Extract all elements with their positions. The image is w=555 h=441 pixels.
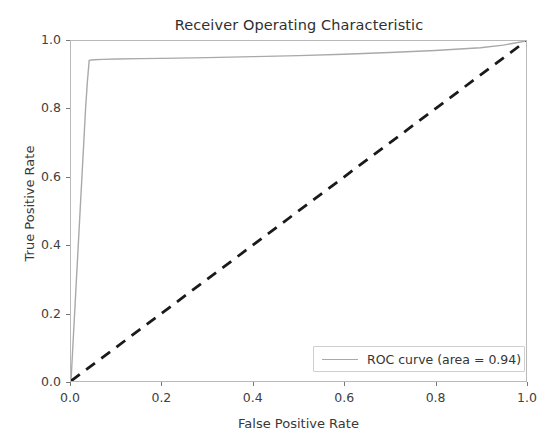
x-tick-mark (253, 382, 254, 386)
page-title: Receiver Operating Characteristic (70, 17, 528, 33)
plot-svg (71, 41, 526, 381)
legend-line-sample (322, 359, 358, 360)
y-tick-mark (66, 314, 70, 315)
x-axis-label: False Positive Rate (70, 416, 527, 431)
x-tick-label: 0.8 (416, 390, 456, 405)
y-tick-label: 1.0 (27, 32, 61, 47)
y-tick-label: 0.0 (27, 374, 61, 389)
y-tick-mark (66, 245, 70, 246)
y-tick-label: 0.2 (27, 306, 61, 321)
x-tick-label: 0.6 (324, 390, 364, 405)
y-tick-mark (66, 40, 70, 41)
chance-diagonal-line (71, 41, 526, 381)
y-tick-mark (66, 108, 70, 109)
x-tick-label: 0.4 (233, 390, 273, 405)
x-tick-mark (527, 382, 528, 386)
x-tick-mark (70, 382, 71, 386)
y-axis-label: True Positive Rate (22, 124, 37, 284)
x-tick-mark (344, 382, 345, 386)
x-tick-label: 1.0 (507, 390, 547, 405)
x-tick-label: 0.2 (141, 390, 181, 405)
x-tick-label: 0.0 (50, 390, 90, 405)
roc-chart-figure: Receiver Operating Characteristic 0.00.2… (0, 0, 555, 441)
x-tick-mark (161, 382, 162, 386)
legend-box: ROC curve (area = 0.94) (313, 346, 525, 372)
y-tick-mark (66, 177, 70, 178)
y-tick-label: 0.8 (27, 100, 61, 115)
x-tick-mark (436, 382, 437, 386)
legend-entry-label: ROC curve (area = 0.94) (367, 352, 521, 367)
plot-area (70, 40, 527, 382)
